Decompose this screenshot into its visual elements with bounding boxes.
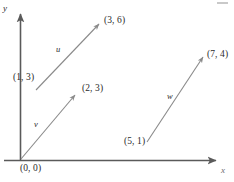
point-label-u-head: (3, 6)	[104, 16, 125, 26]
vector-label-u: u	[56, 45, 60, 54]
y-axis-label: y	[3, 4, 7, 13]
diagram-canvas	[0, 0, 234, 182]
vector-w-arrow	[147, 57, 203, 142]
vector-u-arrow	[36, 24, 99, 90]
vector-label-w: w	[167, 92, 173, 101]
point-label-w-tail: (5, 1)	[124, 137, 145, 147]
point-label-w-head: (7, 4)	[207, 50, 228, 60]
vector-diagram: y x (0, 0) (1, 3) (3, 6) u (2, 3) v (5, …	[0, 0, 234, 182]
point-label-v-head: (2, 3)	[82, 84, 103, 94]
origin-point-label: (0, 0)	[20, 164, 41, 174]
point-label-u-tail: (1, 3)	[13, 73, 34, 83]
vector-v-arrow	[21, 95, 75, 159]
vector-label-v: v	[34, 120, 38, 129]
x-axis-label: x	[221, 166, 225, 175]
